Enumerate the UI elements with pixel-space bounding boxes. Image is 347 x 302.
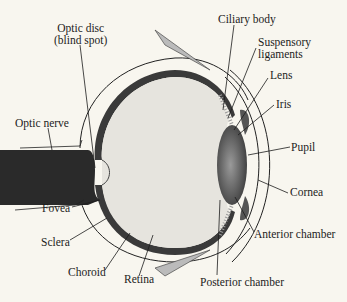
label-pupil: Pupil	[291, 141, 315, 153]
label-suspensory-line2: ligaments	[258, 48, 311, 60]
label-posterior-chamber: Posterior chamber	[200, 276, 284, 288]
label-fovea: Fovea	[42, 202, 70, 214]
label-cornea: Cornea	[290, 186, 323, 198]
label-optic-nerve: Optic nerve	[15, 117, 69, 129]
label-suspensory-line1: Suspensory	[258, 36, 311, 48]
label-optic-disc-line1: Optic disc	[54, 22, 107, 34]
label-optic-disc: Optic disc (blind spot)	[54, 22, 107, 46]
label-lens: Lens	[270, 69, 292, 81]
label-suspensory-ligaments: Suspensory ligaments	[258, 36, 311, 60]
label-choroid: Choroid	[68, 266, 106, 278]
label-optic-disc-line2: (blind spot)	[54, 34, 107, 46]
label-ciliary-body: Ciliary body	[218, 13, 276, 25]
muscle-upper	[155, 30, 210, 70]
label-iris: Iris	[276, 98, 291, 110]
optic-nerve	[0, 150, 100, 205]
lens-shape	[217, 125, 247, 205]
label-sclera: Sclera	[41, 236, 70, 248]
label-retina: Retina	[124, 273, 154, 285]
label-anterior-chamber: Anterior chamber	[254, 228, 335, 240]
